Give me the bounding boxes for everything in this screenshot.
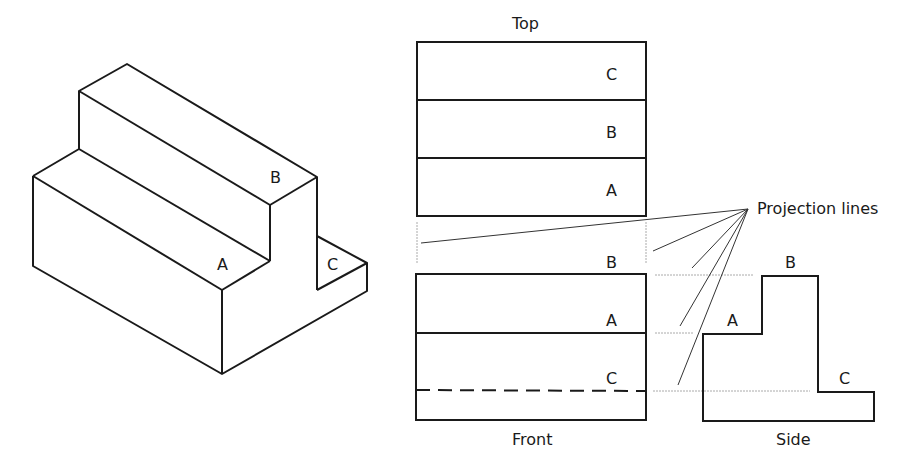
side-label-a: A xyxy=(727,311,738,330)
iso-label-a: A xyxy=(217,255,228,274)
side-view xyxy=(703,276,874,421)
isometric-view xyxy=(33,64,367,374)
side-label-b: B xyxy=(785,253,796,272)
front-view xyxy=(416,274,646,420)
projection-line-leaders xyxy=(421,209,748,385)
front-view-title: Front xyxy=(512,430,552,449)
iso-label-b: B xyxy=(270,168,281,187)
iso-label-c: C xyxy=(327,255,338,274)
side-label-c: C xyxy=(839,369,850,388)
side-view-title: Side xyxy=(776,430,811,449)
front-label-a: A xyxy=(606,311,617,330)
projection-lines-label: Projection lines xyxy=(757,199,878,218)
front-label-c: C xyxy=(606,369,617,388)
hidden-line xyxy=(416,390,646,391)
top-label-a: A xyxy=(606,181,617,200)
top-view-title: Top xyxy=(511,14,539,33)
alignment-guides xyxy=(417,222,810,391)
top-label-c: C xyxy=(606,65,617,84)
orthographic-projection-diagram: B A C Top C B A B A C Front B A C Side xyxy=(0,0,913,463)
front-label-b: B xyxy=(606,253,617,272)
top-label-b: B xyxy=(606,123,617,142)
